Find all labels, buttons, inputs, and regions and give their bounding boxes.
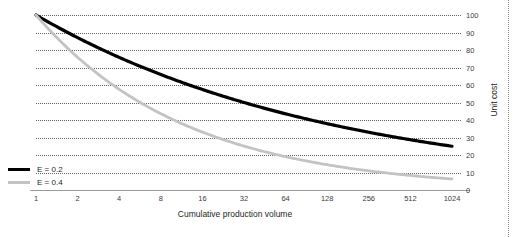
series-line — [36, 15, 452, 179]
x-tick-label: 512 — [390, 195, 430, 203]
experience-curve-chart: 0102030405060708090100 12481632641282565… — [0, 0, 518, 237]
series-line — [36, 15, 452, 146]
line-swatch-dark-icon — [8, 168, 30, 172]
x-tick-label: 4 — [99, 195, 139, 203]
x-tick-label: 64 — [266, 195, 306, 203]
x-tick-label: 256 — [349, 195, 389, 203]
line-swatch-light-icon — [8, 181, 30, 184]
x-tick-label: 128 — [307, 195, 347, 203]
x-tick-label: 1 — [16, 195, 56, 203]
x-tick-label: 1024 — [432, 195, 472, 203]
y-axis-title-text: Unit cost — [489, 83, 499, 116]
x-tick-label: 8 — [141, 195, 181, 203]
legend-item-label: E = 0.2 — [37, 165, 63, 174]
x-tick-label: 32 — [224, 195, 264, 203]
x-tick-label: 2 — [58, 195, 98, 203]
legend-item[interactable]: E = 0.4 — [8, 176, 63, 189]
legend: E = 0.2 E = 0.4 — [8, 163, 63, 189]
plot-area: 0102030405060708090100 12481632641282565… — [0, 0, 470, 200]
figure-right-border — [508, 0, 509, 237]
legend-item-label: E = 0.4 — [37, 178, 63, 187]
x-tick-label: 16 — [182, 195, 222, 203]
series-curves — [0, 0, 470, 200]
x-axis-title: Cumulative production volume — [0, 209, 470, 219]
legend-item[interactable]: E = 0.2 — [8, 163, 63, 176]
